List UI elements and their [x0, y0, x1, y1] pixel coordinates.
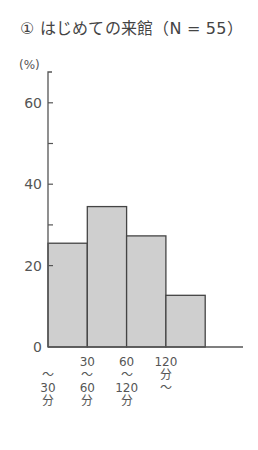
- y-tick-label: 20: [24, 258, 42, 274]
- histogram-bar: [127, 236, 166, 347]
- x-category-label: ～ 30 分: [31, 356, 65, 408]
- histogram-bar: [48, 243, 87, 347]
- y-tick-label: 0: [33, 339, 42, 355]
- histogram-bar: [87, 207, 126, 347]
- x-category-label: 60 ～ 120 分: [110, 356, 144, 408]
- y-tick-label: 40: [24, 176, 42, 192]
- x-category-label: 30 ～ 60 分: [70, 356, 104, 408]
- y-tick-label: 60: [24, 95, 42, 111]
- x-category-label: 120 分 ～: [149, 356, 183, 395]
- histogram-bar: [166, 295, 205, 347]
